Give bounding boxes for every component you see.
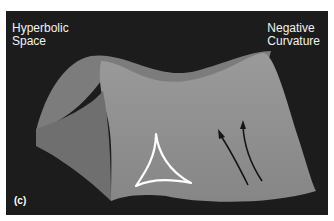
panel-label: (c) <box>14 195 26 206</box>
label-negative-curvature: Negative Curvature <box>267 22 320 48</box>
label-line: Space <box>12 35 69 48</box>
label-hyperbolic-space: Hyperbolic Space <box>12 22 69 48</box>
label-line: Curvature <box>267 35 320 48</box>
figure-panel: Hyperbolic Space Negative Curvature (c) <box>6 11 328 215</box>
